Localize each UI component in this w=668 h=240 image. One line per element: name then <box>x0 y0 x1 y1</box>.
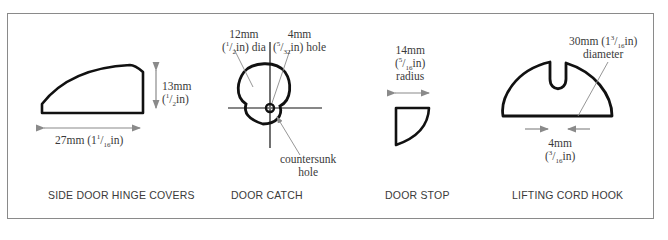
countersunk-hole-label: countersunk hole <box>280 153 336 179</box>
lifting-cord-hook-profile <box>503 62 612 116</box>
door-catch-hole-label: 4mm (5/32in) hole <box>273 28 326 54</box>
caption-door-catch: DOOR CATCH <box>231 189 303 201</box>
hinge-width-label: 27mm (11/16in) <box>55 134 123 147</box>
door-catch-dia-label: 12mm (1/2in) dia <box>222 28 266 54</box>
door-stop-profile <box>396 108 429 145</box>
caption-door-stop: DOOR STOP <box>385 189 450 201</box>
hook-slot-label: 4mm (3/16in) <box>545 137 575 163</box>
door-stop-radius-label: 14mm (5/16in) radius <box>395 44 425 83</box>
caption-side-door-hinge-covers: SIDE DOOR HINGE COVERS <box>48 189 195 201</box>
hinge-cover-profile <box>42 65 143 113</box>
hinge-height-label: 13mm (1/2in) <box>162 80 191 106</box>
hook-diameter-label: 30mm (13/16in) diameter <box>569 35 637 61</box>
caption-lifting-cord-hook: LIFTING CORD HOOK <box>512 189 623 201</box>
